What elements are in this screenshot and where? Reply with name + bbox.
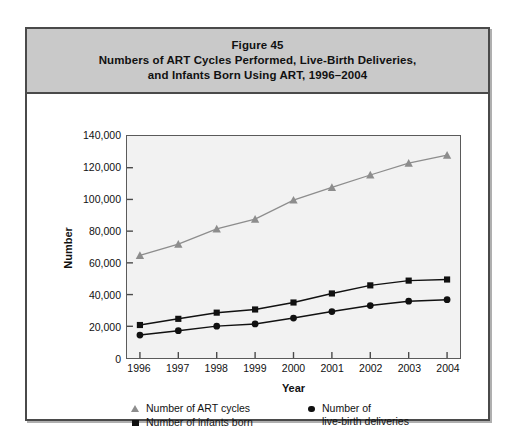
- legend-label-live-birth-deliveries-line1: Number of: [322, 402, 409, 415]
- figure-title-line-2: and Infants Born Using ART, 1996–2004: [148, 68, 367, 83]
- y-tick-label: 100,000: [63, 193, 121, 205]
- figure-title-band: Figure 45 Numbers of ART Cycles Performe…: [27, 29, 488, 94]
- data-point-circle: [405, 298, 412, 305]
- plot-area: [126, 135, 461, 359]
- data-point-circle: [252, 321, 259, 328]
- x-tick-label: 2001: [320, 362, 343, 374]
- y-tick-label: 0: [63, 353, 121, 365]
- x-tick-label: 1998: [205, 362, 228, 374]
- y-tick-label: 20,000: [63, 321, 121, 333]
- data-point-square: [252, 306, 258, 312]
- chart-body: Number 020,00040,00060,00080,000100,0001…: [27, 94, 488, 419]
- x-tick-label: 2000: [282, 362, 305, 374]
- x-tick-label: 2003: [398, 362, 421, 374]
- data-point-square: [329, 290, 335, 296]
- data-point-square: [137, 322, 143, 328]
- legend-label-live-birth-deliveries-line2: live-birth deliveries: [322, 415, 409, 428]
- data-point-square: [290, 299, 296, 305]
- x-axis-tick-labels: 199619971998199920002001200220032004: [126, 362, 461, 378]
- x-tick-label: 2004: [436, 362, 459, 374]
- legend-label-infants-born: Number of infants born: [146, 416, 253, 429]
- x-tick-label: 2002: [359, 362, 382, 374]
- data-point-triangle: [251, 215, 259, 223]
- data-point-square: [444, 276, 450, 282]
- series-line-0: [140, 155, 447, 255]
- x-tick-label: 1999: [243, 362, 266, 374]
- legend-entry-infants-born: Number of infants born: [131, 416, 253, 429]
- figure-number: Figure 45: [231, 38, 283, 53]
- y-tick-label: 120,000: [63, 161, 121, 173]
- data-point-square: [175, 316, 181, 322]
- data-point-square: [367, 282, 373, 288]
- data-point-circle: [444, 296, 451, 303]
- legend-entry-live-birth-deliveries: Number of live-birth deliveries: [307, 402, 409, 427]
- x-tick-label: 1996: [127, 362, 150, 374]
- legend-label-art-cycles: Number of ART cycles: [146, 402, 250, 415]
- plot-svg: [127, 136, 460, 358]
- legend-entry-art-cycles: Number of ART cycles: [131, 402, 250, 415]
- chart-legend: Number of ART cycles Number of infants b…: [131, 402, 461, 436]
- data-point-circle: [290, 315, 297, 322]
- y-tick-label: 140,000: [63, 129, 121, 141]
- y-tick-label: 60,000: [63, 257, 121, 269]
- data-point-square: [214, 310, 220, 316]
- y-tick-label: 40,000: [63, 289, 121, 301]
- data-point-triangle: [443, 151, 451, 159]
- figure-page: Figure 45 Numbers of ART Cycles Performe…: [0, 0, 514, 436]
- figure-frame: Figure 45 Numbers of ART Cycles Performe…: [25, 27, 490, 421]
- data-point-square: [406, 278, 412, 284]
- data-point-circle: [213, 323, 220, 330]
- figure-title-line-1: Numbers of ART Cycles Performed, Live-Bi…: [99, 53, 417, 68]
- circle-marker-icon: [307, 402, 316, 414]
- triangle-marker-icon: [131, 402, 140, 414]
- data-point-circle: [137, 332, 144, 339]
- y-tick-label: 80,000: [63, 225, 121, 237]
- data-point-circle: [175, 327, 182, 334]
- square-marker-icon: [131, 416, 140, 428]
- y-axis-tick-labels: 020,00040,00060,00080,000100,000120,0001…: [59, 94, 121, 419]
- data-point-circle: [329, 308, 336, 315]
- x-axis-title: Year: [126, 382, 461, 394]
- data-point-triangle: [174, 240, 182, 248]
- x-tick-label: 1997: [166, 362, 189, 374]
- data-point-circle: [367, 302, 374, 309]
